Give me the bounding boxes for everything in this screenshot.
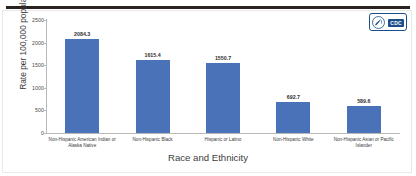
y-tick-mark [43, 110, 46, 111]
x-tick-label: Non-Hispanic American Indian or Alaska N… [47, 137, 117, 149]
bar-group: 692.7 [258, 20, 328, 133]
x-tick-label: Non-Hispanic Black [117, 137, 187, 143]
x-axis-title: Race and Ethnicity [0, 152, 416, 163]
y-tick-mark [43, 133, 46, 134]
y-tick-mark [43, 20, 46, 21]
plot-area: 2084.31615.41550.7692.7589.6 [47, 20, 399, 133]
y-axis-title: Rate per 100,000 population [18, 0, 28, 97]
bar-group: 1550.7 [188, 20, 258, 133]
y-tick-mark [43, 65, 46, 66]
x-tick-label: Non-Hispanic Asian or Pacific Islander [329, 137, 399, 149]
bar[interactable] [136, 60, 170, 133]
bar-value-label: 1615.4 [144, 52, 160, 58]
top-rule [6, 6, 410, 9]
bar[interactable] [276, 102, 310, 133]
bar-value-label: 589.6 [357, 98, 370, 104]
bar-value-label: 1550.7 [215, 55, 231, 61]
bar-group: 1615.4 [117, 20, 187, 133]
x-tick-label: Non-Hispanic White [258, 137, 328, 143]
chart-figure: CDC 05001000150020002500 Rate per 100,00… [0, 0, 416, 176]
bar-value-label: 2084.3 [74, 31, 90, 37]
y-tick-mark [43, 43, 46, 44]
x-tick-label: Hispanic or Latino [188, 137, 258, 143]
bar-group: 589.6 [329, 20, 399, 133]
y-tick-mark [43, 88, 46, 89]
bar-value-label: 692.7 [287, 94, 300, 100]
bar[interactable] [65, 39, 99, 133]
x-axis-line [46, 133, 400, 134]
bar-group: 2084.3 [47, 20, 117, 133]
bar[interactable] [206, 63, 240, 133]
bar[interactable] [347, 106, 381, 133]
